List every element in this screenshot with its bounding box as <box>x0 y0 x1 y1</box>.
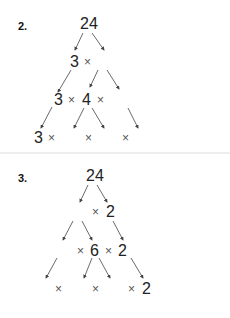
problem-number: 3. <box>18 172 27 184</box>
blank-box[interactable] <box>100 57 114 67</box>
times-sign: × <box>92 204 99 220</box>
blank-box[interactable] <box>63 133 77 143</box>
factor: 2 <box>106 204 115 220</box>
blank-box[interactable] <box>112 95 126 105</box>
times-sign: × <box>128 281 135 297</box>
factor-tree-arrows <box>0 0 230 318</box>
times-sign: × <box>68 92 75 108</box>
blank-box[interactable] <box>137 133 151 143</box>
times-sign: × <box>48 130 55 146</box>
factor: 2 <box>118 243 127 259</box>
factor: 3 <box>34 130 43 146</box>
times-sign: × <box>92 281 99 297</box>
blank-box[interactable] <box>33 284 47 294</box>
blank-box[interactable] <box>107 284 121 294</box>
times-sign: × <box>105 243 112 259</box>
blank-box[interactable] <box>54 246 68 256</box>
times-sign: × <box>84 54 91 70</box>
factor: 4 <box>82 92 91 108</box>
tree-root: 24 <box>80 16 98 32</box>
times-sign: × <box>97 92 104 108</box>
times-sign: × <box>122 130 129 146</box>
factor: 2 <box>142 281 151 297</box>
factor: 6 <box>90 243 99 259</box>
factor: 3 <box>54 92 63 108</box>
divider <box>0 152 230 154</box>
blank-box[interactable] <box>70 207 84 217</box>
blank-box[interactable] <box>100 133 114 143</box>
tree-root: 24 <box>86 168 104 184</box>
times-sign: × <box>77 243 84 259</box>
blank-box[interactable] <box>70 284 84 294</box>
times-sign: × <box>85 130 92 146</box>
factor: 3 <box>70 54 79 70</box>
times-sign: × <box>55 281 62 297</box>
problem-number: 2. <box>18 20 27 32</box>
